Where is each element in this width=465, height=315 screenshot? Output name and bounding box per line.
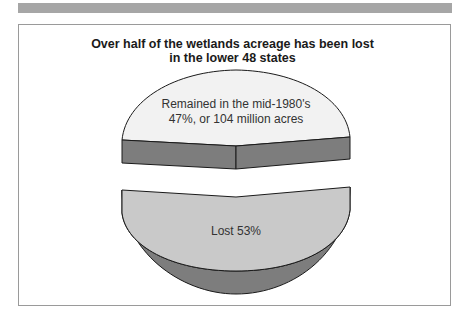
slice-label-remained: Remained in the mid-1980's 47%, or 104 m… <box>136 97 336 127</box>
pie-chart <box>0 0 465 315</box>
slice-label-remained-line-2: 47%, or 104 million acres <box>136 112 336 127</box>
slice-label-remained-line-1: Remained in the mid-1980's <box>136 97 336 112</box>
slice-label-lost: Lost 53% <box>186 224 286 239</box>
